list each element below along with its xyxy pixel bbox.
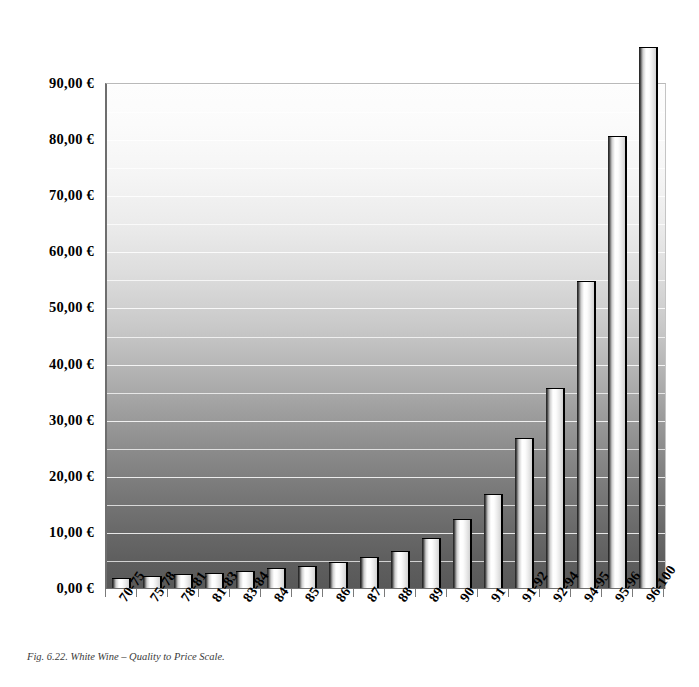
bar [577,281,596,588]
y-tick-label: 60,00 € [14,243,94,260]
y-tick-label: 90,00 € [14,75,94,92]
bar [639,47,658,588]
bar [360,557,379,588]
y-tick-label: 10,00 € [14,523,94,540]
y-axis: 0,00 €10,00 €20,00 €30,00 €40,00 €50,00 … [14,0,100,687]
figure-white-wine-quality-to-price-scale: 0,00 €10,00 €20,00 €30,00 €40,00 €50,00 … [0,0,699,687]
bar [484,494,503,588]
bar [329,562,348,588]
bar [546,388,565,588]
bar [298,566,317,588]
bar [422,538,441,588]
y-tick-label: 80,00 € [14,131,94,148]
y-tick-label: 70,00 € [14,187,94,204]
y-tick-label: 50,00 € [14,299,94,316]
y-tick-label: 30,00 € [14,411,94,428]
bar [515,438,534,588]
y-tick-label: 0,00 € [14,580,94,597]
bar [608,136,627,588]
y-tick-label: 20,00 € [14,467,94,484]
bar [391,551,410,588]
x-axis: 70-7575-7878-8181-8383-84848586878889909… [105,596,699,656]
bar [453,519,472,588]
figure-caption: Fig. 6.22. White Wine – Quality to Price… [27,651,225,662]
bar-series [105,83,663,588]
y-tick-label: 40,00 € [14,355,94,372]
